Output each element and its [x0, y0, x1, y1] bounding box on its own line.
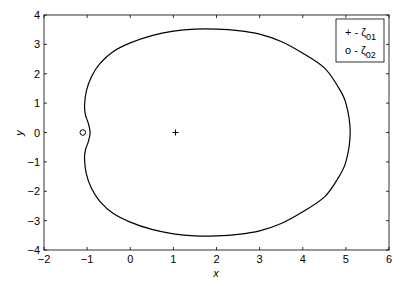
x-tick-label: 1: [170, 253, 176, 265]
x-tick-label: −1: [81, 253, 94, 265]
x-tick-label: 0: [127, 253, 133, 265]
y-axis-label: y: [13, 129, 25, 137]
x-tick-label: 3: [257, 253, 263, 265]
y-tick-label: −3: [27, 215, 40, 227]
y-tick-label: 3: [34, 38, 40, 50]
x-tick-label: 4: [300, 253, 306, 265]
y-tick-label: 0: [34, 127, 40, 139]
chart: −2−10123456−4−3−2−101234 x y + - ζ01o - …: [0, 0, 401, 286]
y-tick-label: 2: [34, 68, 40, 80]
y-tick-label: 4: [34, 9, 40, 21]
x-tick-label: 6: [386, 253, 392, 265]
y-tick-label: −1: [27, 156, 40, 168]
legend: + - ζ01o - ζ02: [336, 19, 384, 62]
x-tick-label: 2: [213, 253, 219, 265]
x-axis-label: x: [212, 267, 219, 279]
y-tick-label: 1: [34, 97, 40, 109]
y-tick-label: −2: [27, 185, 40, 197]
x-tick-label: 5: [343, 253, 349, 265]
y-tick-label: −4: [27, 244, 40, 256]
